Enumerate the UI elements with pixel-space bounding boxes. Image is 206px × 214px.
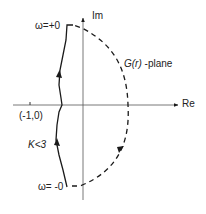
plane-label-suffix: -plane (142, 58, 173, 69)
imag-axis-label: Im (92, 11, 103, 21)
gain-condition-text: K<3 (28, 139, 46, 150)
omega-top-label: ω=+0 (35, 21, 60, 31)
real-axis-label: Re (182, 99, 195, 109)
nyquist-arc-dashed (72, 25, 128, 186)
curve-direction-arrow-up-icon (54, 138, 60, 146)
nyquist-curve-solid (56, 25, 73, 187)
omega-bottom-label: ω= -0 (38, 182, 63, 192)
critical-point-label: (-1,0) (19, 111, 43, 121)
plane-label-func: G(r) (124, 58, 142, 69)
arc-direction-arrow-down-icon (117, 146, 124, 153)
plane-label: G(r) -plane (124, 59, 172, 69)
gain-condition-label: K<3 (28, 140, 46, 150)
nyquist-diagram (0, 0, 206, 214)
curve-direction-arrow-up-icon (56, 70, 62, 78)
